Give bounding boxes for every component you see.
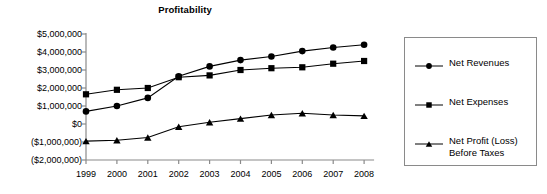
x-axis-tick-label: 2008 (347, 169, 381, 179)
x-axis-tick-label: 2001 (131, 169, 165, 179)
x-axis-tick-label: 2004 (224, 169, 258, 179)
chart-screenshot: Profitability $5,000,000$4,000,000$3,000… (0, 0, 547, 194)
legend-item-0: Net Revenues (405, 57, 538, 70)
legend-marker-square-icon (414, 97, 444, 109)
x-axis-tick-label: 2007 (316, 169, 350, 179)
x-axis-tick-labels: 1999200020012002200320042005200620072008 (0, 0, 386, 194)
legend-item-1: Net Expenses (405, 96, 538, 109)
legend-marker-triangle-icon (414, 136, 444, 148)
x-axis-tick-label: 1999 (69, 169, 103, 179)
x-axis-tick-label: 2002 (162, 169, 196, 179)
x-axis-tick-label: 2000 (100, 169, 134, 179)
plot-area: $5,000,000$4,000,000$3,000,000$2,000,000… (0, 0, 386, 194)
x-axis-tick-label: 2003 (193, 169, 227, 179)
legend-label: Net Expenses (449, 96, 508, 108)
chart-legend: Net RevenuesNet ExpensesNet Profit (Loss… (404, 37, 537, 166)
x-axis-tick-label: 2005 (254, 169, 288, 179)
legend-item-2: Net Profit (Loss) Before Taxes (405, 135, 538, 159)
legend-label: Net Profit (Loss) Before Taxes (449, 135, 518, 159)
legend-label: Net Revenues (449, 57, 509, 69)
x-axis-tick-label: 2006 (285, 169, 319, 179)
legend-marker-circle-icon (414, 58, 444, 70)
